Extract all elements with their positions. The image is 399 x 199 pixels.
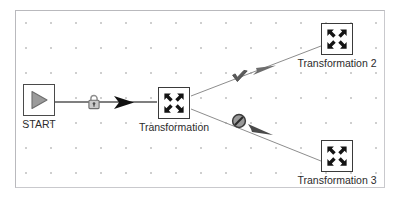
transformation-converge-icon bbox=[326, 28, 348, 50]
node-transformation-3-label: Transformation 3 bbox=[298, 174, 377, 186]
checkmark-icon bbox=[231, 69, 249, 85]
link-line-transformation-to-transformation-3[interactable] bbox=[191, 109, 321, 161]
arrowhead-link-1 bbox=[114, 96, 134, 109]
screenshot-root: START Transformation bbox=[0, 0, 399, 199]
link-line-transformation-to-transformation-2[interactable] bbox=[191, 46, 321, 96]
node-transformation-3-box[interactable] bbox=[321, 140, 353, 172]
node-transformation-2-label: Transformation 2 bbox=[298, 57, 377, 69]
node-start-box[interactable] bbox=[23, 84, 55, 116]
arrowhead-link-3 bbox=[248, 124, 273, 135]
pipeline-canvas[interactable]: START Transformation bbox=[15, 10, 385, 188]
play-triangle-icon bbox=[28, 89, 50, 111]
prohibited-icon bbox=[231, 113, 247, 129]
node-transformation-2-box[interactable] bbox=[321, 23, 353, 55]
padlock-icon bbox=[88, 94, 101, 110]
transformation-converge-icon bbox=[326, 145, 348, 167]
node-transformation-label: Transformation bbox=[139, 121, 209, 133]
arrowhead-link-2 bbox=[253, 66, 276, 76]
node-start-label: START bbox=[22, 118, 55, 130]
transformation-converge-icon bbox=[163, 92, 185, 114]
node-transformation-box[interactable] bbox=[158, 87, 190, 119]
